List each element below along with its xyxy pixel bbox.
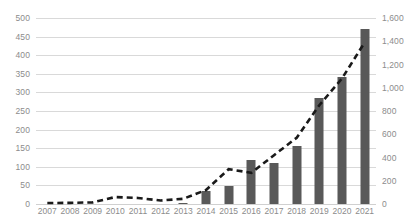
y-axis-right-tick: 200 (382, 176, 396, 186)
x-axis: 2007200820092010201120122013201420152016… (36, 206, 376, 220)
y-axis-left-tick: 300 (16, 87, 30, 97)
y-axis-right: 02004006008001,0001,2001,4001,600 (378, 0, 418, 223)
x-axis-tick: 2020 (331, 206, 354, 216)
y-axis-left-tick: 400 (16, 50, 30, 60)
chart-container: 050100150200250300350400450500 020040060… (0, 0, 419, 223)
y-axis-left: 050100150200250300350400450500 (0, 0, 33, 223)
trend-line[interactable] (47, 42, 364, 203)
y-axis-right-tick: 800 (382, 106, 396, 116)
y-axis-left-tick: 450 (16, 32, 30, 42)
line-series (36, 18, 376, 204)
x-axis-tick: 2015 (217, 206, 240, 216)
x-axis-tick: 2017 (263, 206, 286, 216)
y-axis-right-tick: 400 (382, 153, 396, 163)
x-axis-tick: 2011 (127, 206, 150, 216)
y-axis-left-tick: 200 (16, 125, 30, 135)
y-axis-left-tick: 350 (16, 69, 30, 79)
y-axis-right-tick: 1,400 (382, 36, 404, 46)
x-axis-tick: 2012 (149, 206, 172, 216)
x-axis-tick: 2021 (353, 206, 376, 216)
y-axis-right-tick: 1,000 (382, 83, 404, 93)
x-axis-tick: 2008 (59, 206, 82, 216)
x-axis-tick: 2018 (285, 206, 308, 216)
x-axis-tick: 2013 (172, 206, 195, 216)
y-axis-right-tick: 0 (382, 199, 387, 209)
y-axis-left-tick: 150 (16, 143, 30, 153)
y-axis-left-tick: 0 (25, 199, 30, 209)
y-axis-right-tick: 1,600 (382, 13, 404, 23)
x-axis-tick: 2019 (308, 206, 331, 216)
y-axis-right-tick: 600 (382, 129, 396, 139)
x-axis-tick: 2007 (36, 206, 59, 216)
y-axis-right-tick: 1,200 (382, 60, 404, 70)
axis-baseline (36, 204, 376, 205)
x-axis-tick: 2016 (240, 206, 263, 216)
plot-area (36, 18, 376, 204)
y-axis-left-tick: 250 (16, 106, 30, 116)
y-axis-left-tick: 50 (20, 180, 30, 190)
y-axis-left-tick: 500 (16, 13, 30, 23)
x-axis-tick: 2014 (195, 206, 218, 216)
x-axis-tick: 2009 (81, 206, 104, 216)
y-axis-left-tick: 100 (16, 162, 30, 172)
x-axis-tick: 2010 (104, 206, 127, 216)
